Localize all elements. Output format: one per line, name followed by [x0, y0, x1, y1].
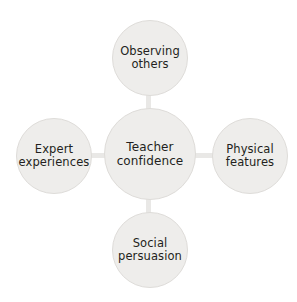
- node-teacher-confidence-label: Teacher confidence: [113, 140, 188, 168]
- node-expert-experiences: Expert experiences: [16, 118, 92, 194]
- node-expert-experiences-label: Expert experiences: [15, 143, 94, 170]
- node-physical-features-label: Physical features: [222, 143, 278, 170]
- node-social-persuasion: Social persuasion: [112, 212, 188, 288]
- node-observing-others: Observing others: [112, 20, 188, 96]
- node-social-persuasion-label: Social persuasion: [114, 237, 186, 264]
- node-observing-others-label: Observing others: [116, 45, 184, 72]
- teacher-confidence-diagram: Observing others Expert experiences Teac…: [0, 0, 297, 302]
- node-teacher-confidence: Teacher confidence: [104, 108, 196, 200]
- node-physical-features: Physical features: [212, 118, 288, 194]
